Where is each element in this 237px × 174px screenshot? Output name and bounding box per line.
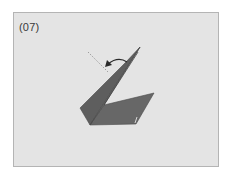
- fold-arrow-icon: [108, 59, 127, 64]
- origami-diagram: [0, 0, 237, 174]
- arrow-head-icon: [105, 60, 112, 67]
- dashed-fold-guide: [88, 52, 108, 72]
